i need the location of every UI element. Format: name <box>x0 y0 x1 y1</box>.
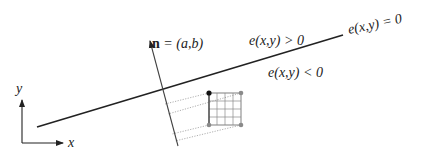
x-axis-label: x <box>67 135 75 150</box>
corner-dot-bottom-right <box>239 123 244 128</box>
normal-label-rest: = (a,b) <box>160 36 204 52</box>
normal-arrow <box>150 41 178 146</box>
corner-dot-top-right <box>239 91 244 96</box>
zero-line-label: e(x,y) = 0 <box>347 11 404 38</box>
edge-function-diagram: n = (a,b) e(x,y) > 0 e(x,y) < 0 e(x,y) =… <box>0 0 425 153</box>
negative-region-label: e(x,y) < 0 <box>268 65 323 81</box>
y-axis-label: y <box>14 81 23 96</box>
normal-label-bold: n <box>152 36 160 51</box>
corner-dot-bottom-left <box>207 123 212 128</box>
corner-dot-top-left <box>206 90 211 95</box>
pixel-tile-grid <box>209 93 241 125</box>
positive-region-label: e(x,y) > 0 <box>249 33 304 49</box>
normal-label: n = (a,b) <box>152 36 203 52</box>
